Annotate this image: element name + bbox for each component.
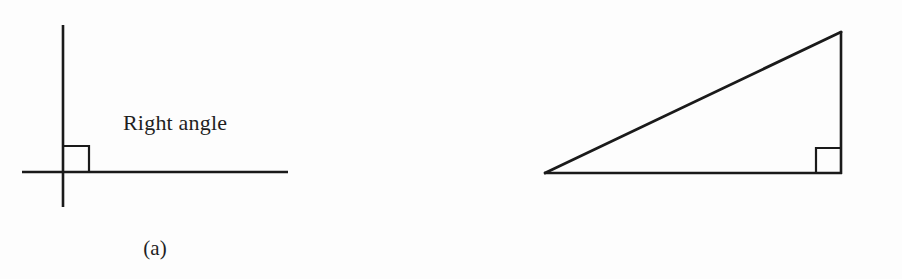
triangle-side-c (545, 32, 841, 173)
figure-panel-b: A B C a b c (b) (451, 0, 902, 279)
figure-root: Right angle (a) A B C a b c (b) (0, 0, 902, 279)
right-angle-marker-icon (816, 148, 841, 173)
figure-panel-a: Right angle (a) (0, 0, 451, 279)
panel-a-caption: (a) (105, 238, 205, 259)
right-angle-marker-icon (63, 146, 89, 172)
right-angle-diagram (0, 0, 451, 279)
right-angle-annotation-label: Right angle (123, 112, 227, 134)
right-triangle-diagram (451, 0, 902, 279)
